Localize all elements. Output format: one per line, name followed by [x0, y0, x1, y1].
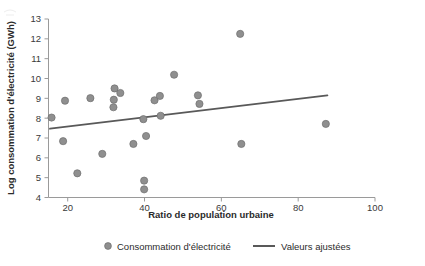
- y-tick-label: 4: [36, 192, 41, 203]
- y-tick-label: 7: [36, 132, 41, 143]
- data-point: [322, 120, 329, 127]
- x-tick-label: 100: [367, 202, 383, 213]
- data-point: [194, 92, 201, 99]
- data-point: [196, 100, 203, 107]
- data-point: [157, 112, 164, 119]
- data-point: [141, 177, 148, 184]
- data-point: [141, 186, 148, 193]
- data-point: [238, 140, 245, 147]
- data-point: [110, 104, 117, 111]
- y-tick-label: 13: [30, 13, 41, 24]
- x-tick-label: 20: [62, 202, 73, 213]
- data-point: [130, 140, 137, 147]
- data-point: [99, 150, 106, 157]
- data-point: [171, 71, 178, 78]
- legend-label-valeurs-ajustees: Valeurs ajustées: [281, 241, 351, 252]
- data-point: [142, 132, 149, 139]
- data-point: [48, 114, 55, 121]
- y-tick-label: 10: [30, 73, 41, 84]
- chart-legend: Consommation d'électricité Valeurs ajust…: [105, 241, 351, 252]
- data-point: [110, 96, 117, 103]
- legend-marker-scatter-icon: [105, 243, 112, 250]
- chart-canvas: 45678910111213 20406080100 Ratio de popu…: [0, 0, 425, 266]
- y-axis-title: Log consommation d'électricité (GWh): [5, 21, 16, 195]
- data-point: [59, 138, 66, 145]
- data-point: [156, 92, 163, 99]
- y-tick-label: 9: [36, 93, 41, 104]
- data-point: [87, 95, 94, 102]
- x-tick-label: 80: [293, 202, 304, 213]
- cropped-artifact-icon: [4, 10, 16, 15]
- y-tick-label: 5: [36, 172, 41, 183]
- data-point: [74, 170, 81, 177]
- y-tick-label: 12: [30, 33, 41, 44]
- data-point: [237, 30, 244, 37]
- y-tick-label: 8: [36, 113, 41, 124]
- data-point: [140, 116, 147, 123]
- y-tick-label: 11: [31, 53, 41, 64]
- axis-y: 45678910111213: [30, 13, 48, 203]
- data-point: [117, 89, 124, 96]
- data-point: [61, 97, 68, 104]
- y-tick-marks: [45, 19, 49, 198]
- y-tick-labels: 45678910111213: [30, 13, 41, 203]
- legend-label-consommation: Consommation d'électricité: [117, 241, 231, 252]
- scatter-chart: 45678910111213 20406080100 Ratio de popu…: [0, 0, 425, 266]
- x-axis-title: Ratio de population urbaine: [148, 209, 274, 220]
- x-tick-marks: [68, 198, 375, 202]
- y-tick-label: 6: [36, 152, 41, 163]
